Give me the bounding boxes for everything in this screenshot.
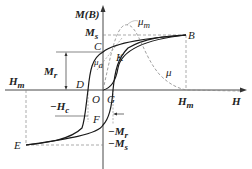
point-c-label: C bbox=[94, 41, 101, 52]
mr-label: Mr bbox=[44, 66, 57, 80]
point-d-label: D bbox=[76, 79, 84, 90]
point-f-label: F bbox=[93, 114, 100, 125]
mu-a-label: μa bbox=[94, 58, 103, 70]
mr-arrow-head-bottom bbox=[65, 86, 68, 90]
point-e-label: E bbox=[14, 140, 21, 151]
mr-arrow-head-top bbox=[65, 52, 68, 56]
hm-right-label: Hm bbox=[178, 96, 194, 110]
x-axis-label: H bbox=[232, 96, 241, 107]
point-g-label: G bbox=[107, 94, 115, 105]
point-b-label: B bbox=[188, 30, 195, 41]
point-o-label: O bbox=[92, 94, 100, 105]
neg-ms-label: −Ms bbox=[108, 138, 128, 152]
point-k-label: K bbox=[116, 52, 123, 63]
neg-hc-arrow-head bbox=[113, 113, 117, 116]
mu-m-label: μm bbox=[138, 16, 150, 30]
x-axis-arrow bbox=[240, 88, 247, 93]
y-axis-arrow bbox=[101, 5, 106, 12]
mu-m-leader bbox=[127, 21, 138, 25]
y-axis-label: M(B) bbox=[75, 9, 99, 20]
neg-hc-label: −Hc bbox=[50, 101, 69, 115]
hm-left-label: Hm bbox=[9, 76, 25, 90]
mu-label: μ bbox=[166, 67, 172, 78]
